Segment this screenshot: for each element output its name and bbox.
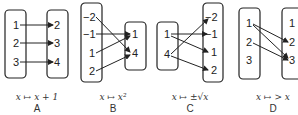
mapping-arrow bbox=[253, 24, 288, 42]
mapping-diagrams: 1 2 3 2 3 4 x ↦ x + 1 A −2 −1 1 2 1 4 x … bbox=[0, 0, 298, 115]
domain-value: 1 bbox=[246, 17, 252, 29]
domain-value: 1 bbox=[164, 28, 170, 40]
domain-value: 3 bbox=[13, 56, 19, 68]
codomain-value: 4 bbox=[132, 47, 138, 59]
domain-value: 2 bbox=[89, 65, 95, 77]
diagram-c: 1 4 −2 −1 1 2 x ↦ ±√x C bbox=[157, 3, 223, 114]
diagram-label: B bbox=[110, 103, 117, 114]
diagram-label: A bbox=[34, 103, 41, 114]
diagram-a: 1 2 3 2 3 4 x ↦ x + 1 A bbox=[5, 10, 68, 114]
function-caption: x ↦ ±√x bbox=[172, 92, 209, 102]
codomain-value: 3 bbox=[289, 54, 295, 66]
codomain-value: 1 bbox=[211, 46, 217, 58]
mapping-arrow bbox=[253, 43, 288, 60]
codomain-value: 3 bbox=[54, 37, 60, 49]
codomain-value: −2 bbox=[205, 11, 218, 23]
diagram-label: D bbox=[269, 103, 276, 114]
domain-value: 3 bbox=[246, 54, 252, 66]
codomain-value: 2 bbox=[289, 36, 295, 48]
domain-value: 2 bbox=[246, 36, 252, 48]
codomain-value: 1 bbox=[132, 28, 138, 40]
domain-value: 1 bbox=[89, 47, 95, 59]
codomain-value: 2 bbox=[211, 64, 217, 76]
mapping-arrow bbox=[253, 25, 288, 58]
codomain-value: 2 bbox=[54, 19, 60, 31]
codomain-value: 4 bbox=[54, 56, 60, 68]
codomain-value: 1 bbox=[289, 17, 295, 29]
domain-value: −2 bbox=[83, 11, 96, 23]
domain-value: −1 bbox=[83, 28, 96, 40]
diagram-label: C bbox=[186, 103, 193, 114]
function-caption: x ↦ x + 1 bbox=[16, 92, 58, 102]
diagram-d: 1 2 3 1 2 3 x ↦ > x D bbox=[239, 8, 298, 114]
domain-value: 2 bbox=[13, 37, 19, 49]
domain-value: 4 bbox=[164, 48, 170, 60]
diagram-b: −2 −1 1 2 1 4 x ↦ x² B bbox=[81, 3, 146, 114]
function-caption: x ↦ x² bbox=[99, 92, 126, 102]
function-caption: x ↦ > x bbox=[256, 92, 290, 102]
domain-value: 1 bbox=[13, 19, 19, 31]
